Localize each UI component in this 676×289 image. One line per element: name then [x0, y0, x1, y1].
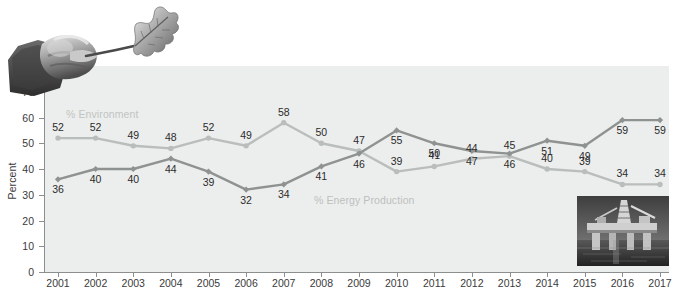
data-value-label: 52 [81, 122, 111, 133]
series-marker [432, 164, 437, 169]
series-annotation-environment: % Environment [66, 108, 139, 120]
series-marker [168, 156, 174, 162]
series-marker [206, 135, 211, 140]
series-marker [55, 176, 61, 182]
series-marker [93, 166, 99, 172]
data-value-label: 50 [419, 148, 449, 159]
data-value-label: 32 [231, 195, 261, 206]
data-value-label: 46 [344, 159, 374, 170]
data-value-label: 40 [118, 174, 148, 185]
series-marker [657, 182, 662, 187]
offshore-oil-rig-photo [577, 196, 669, 266]
data-value-label: 40 [81, 174, 111, 185]
series-marker [544, 138, 550, 144]
series-marker [55, 135, 60, 140]
data-value-label: 48 [156, 132, 186, 143]
series-marker [620, 182, 625, 187]
series-marker [243, 143, 248, 148]
series-marker [281, 120, 286, 125]
series-marker [544, 166, 549, 171]
data-value-label: 34 [269, 189, 299, 200]
series-annotation-energy-production: % Energy Production [314, 194, 415, 206]
series-marker [131, 143, 136, 148]
data-value-label: 36 [43, 184, 73, 195]
data-value-label: 46 [495, 159, 525, 170]
data-value-label: 50 [306, 127, 336, 138]
data-value-label: 52 [43, 122, 73, 133]
data-value-label: 39 [382, 156, 412, 167]
hand-holding-leaf-photo [8, 0, 180, 98]
data-value-label: 52 [194, 122, 224, 133]
data-value-label: 59 [607, 125, 637, 136]
data-value-label: 41 [306, 171, 336, 182]
series-marker [582, 169, 587, 174]
data-value-label: 59 [645, 125, 675, 136]
series-marker [657, 117, 663, 123]
series-marker [168, 146, 173, 151]
data-value-label: 44 [457, 143, 487, 154]
data-value-label: 55 [382, 135, 412, 146]
data-value-label: 34 [607, 168, 637, 179]
series-marker [319, 141, 324, 146]
series-marker [431, 140, 437, 146]
series-marker [394, 169, 399, 174]
series-marker [93, 135, 98, 140]
data-value-label: 34 [645, 168, 675, 179]
data-value-label: 47 [457, 156, 487, 167]
data-value-label: 44 [156, 164, 186, 175]
data-value-label: 58 [269, 107, 299, 118]
data-value-label: 39 [194, 177, 224, 188]
series-marker [130, 166, 136, 172]
data-value-label: 51 [532, 146, 562, 157]
data-value-label: 49 [231, 130, 261, 141]
data-value-label: 49 [118, 130, 148, 141]
data-value-label: 47 [344, 135, 374, 146]
data-value-label: 45 [495, 140, 525, 151]
data-value-label: 49 [570, 151, 600, 162]
